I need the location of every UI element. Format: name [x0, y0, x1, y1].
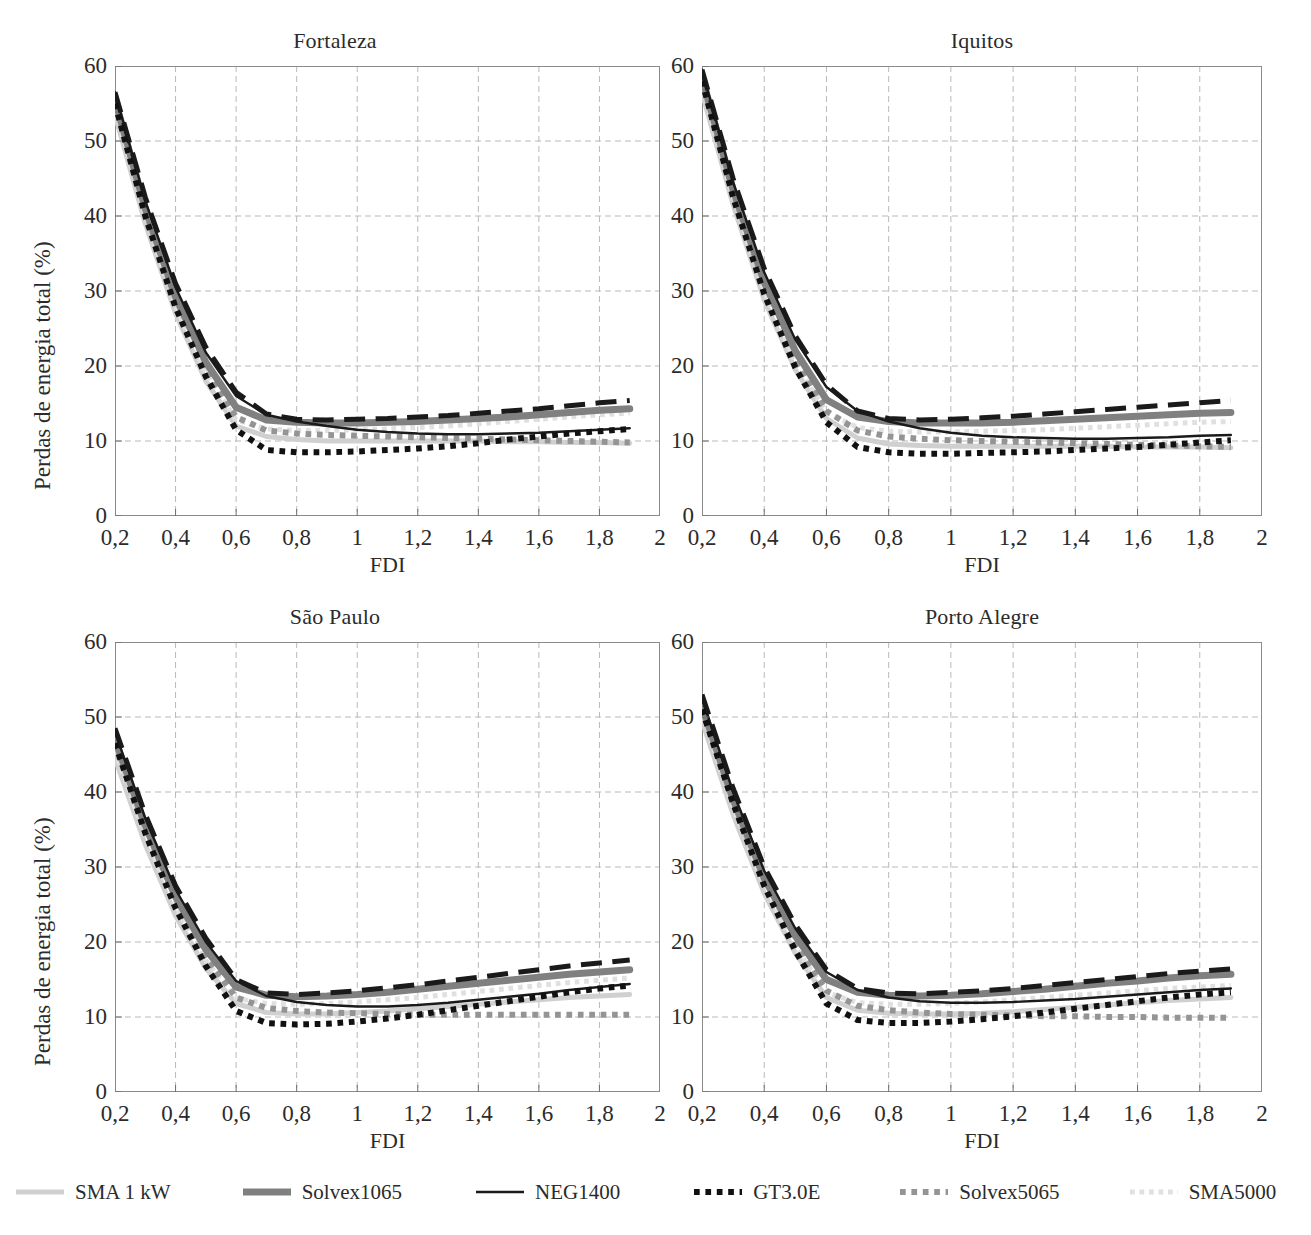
chart-canvas — [115, 66, 660, 516]
y-tick-label: 60 — [652, 630, 694, 653]
x-tick-label: 1,4 — [448, 526, 508, 549]
series-line-gt3-0e — [115, 743, 630, 1024]
legend-item-solvex1065[interactable]: Solvex1065 — [241, 1180, 402, 1205]
x-tick-label: 1 — [921, 1102, 981, 1125]
legend-item-sma-1-kw[interactable]: SMA 1 kW — [14, 1180, 171, 1205]
panel-title: Fortaleza — [55, 28, 615, 54]
panel-title: Porto Alegre — [702, 604, 1262, 630]
x-tick-label: 1 — [921, 526, 981, 549]
legend: SMA 1 kWSolvex1065NEG1400GT3.0ESolvex506… — [0, 1172, 1311, 1212]
y-tick-label: 20 — [65, 930, 107, 953]
x-tick-label: 1 — [327, 1102, 387, 1125]
y-tick-label: 50 — [65, 705, 107, 728]
x-tick-label: 0,2 — [85, 526, 145, 549]
series-line-neg1400 — [702, 70, 1231, 439]
x-tick-label: 1,2 — [983, 1102, 1043, 1125]
series-line-solvex5065 — [702, 710, 1231, 1018]
y-tick-label: 30 — [652, 279, 694, 302]
y-tick-label: 40 — [652, 780, 694, 803]
panel-title: Iquitos — [702, 28, 1262, 54]
legend-label: Solvex1065 — [302, 1180, 402, 1205]
y-axis-label: Perdas de energia total (%) — [30, 817, 56, 1066]
legend-swatch-icon — [692, 1183, 744, 1201]
series-line-sma5000 — [702, 85, 1231, 432]
x-tick-label: 1,4 — [448, 1102, 508, 1125]
legend-item-neg1400[interactable]: NEG1400 — [474, 1180, 620, 1205]
x-tick-label: 1,2 — [388, 526, 448, 549]
series-line-sma5000 — [115, 107, 630, 430]
y-tick-label: 30 — [65, 279, 107, 302]
x-tick-label: 0,6 — [206, 526, 266, 549]
x-tick-label: 1,8 — [1170, 526, 1230, 549]
series-line-solvex1065 — [115, 100, 630, 423]
series-line-sma-1-kw — [115, 115, 630, 444]
x-axis-label: FDI — [115, 552, 660, 578]
y-tick-label: 50 — [65, 129, 107, 152]
y-tick-label: 0 — [65, 504, 107, 527]
panel-iquitos: Iquitos FDI 01020304050600,20,40,60,811,… — [602, 22, 1311, 582]
x-tick-label: 0,4 — [146, 526, 206, 549]
x-tick-label: 1,2 — [983, 526, 1043, 549]
series-line-pvv3000 — [115, 92, 630, 420]
y-tick-label: 30 — [65, 855, 107, 878]
panel-fortaleza: Fortaleza Perdas de energia total (%) FD… — [0, 22, 660, 582]
chart-canvas — [702, 642, 1262, 1092]
y-tick-label: 60 — [652, 54, 694, 77]
x-tick-label: 1,2 — [388, 1102, 448, 1125]
plot-area-porto-alegre — [702, 642, 1262, 1092]
x-tick-label: 2 — [1232, 526, 1292, 549]
legend-label: SMA5000 — [1189, 1180, 1277, 1205]
legend-swatch-icon — [898, 1183, 950, 1201]
legend-label: Solvex5065 — [959, 1180, 1059, 1205]
legend-swatch-icon — [474, 1183, 526, 1201]
plot-area-fortaleza — [115, 66, 660, 516]
x-tick-label: 0,6 — [206, 1102, 266, 1125]
y-tick-label: 10 — [65, 429, 107, 452]
series-line-solvex1065 — [702, 706, 1231, 996]
x-tick-label: 0,4 — [734, 526, 794, 549]
x-axis-label: FDI — [702, 552, 1262, 578]
panel-porto-alegre: Porto Alegre FDI 01020304050600,20,40,60… — [602, 598, 1311, 1158]
plot-area-sao-paulo — [115, 642, 660, 1092]
x-tick-label: 0,8 — [859, 1102, 919, 1125]
y-tick-label: 60 — [65, 630, 107, 653]
x-tick-label: 1 — [327, 526, 387, 549]
series-line-sma-1-kw — [702, 92, 1231, 448]
x-tick-label: 1,4 — [1045, 1102, 1105, 1125]
x-axis-label: FDI — [115, 1128, 660, 1154]
y-tick-label: 0 — [65, 1080, 107, 1103]
legend-label: NEG1400 — [535, 1180, 620, 1205]
y-tick-label: 50 — [652, 129, 694, 152]
x-tick-label: 0,6 — [796, 1102, 856, 1125]
x-tick-label: 0,6 — [796, 526, 856, 549]
y-tick-label: 20 — [652, 354, 694, 377]
series-line-gt3-0e — [702, 81, 1231, 454]
series-line-sma5000 — [702, 713, 1231, 1004]
panel-title: São Paulo — [55, 604, 615, 630]
plot-area-iquitos — [702, 66, 1262, 516]
x-tick-label: 1,8 — [1170, 1102, 1230, 1125]
x-tick-label: 0,8 — [267, 526, 327, 549]
series-line-neg1400 — [115, 732, 630, 1007]
y-tick-label: 60 — [65, 54, 107, 77]
y-tick-label: 40 — [65, 780, 107, 803]
series-line-neg1400 — [115, 92, 630, 434]
y-tick-label: 10 — [652, 429, 694, 452]
x-axis-label: FDI — [702, 1128, 1262, 1154]
y-axis-label: Perdas de energia total (%) — [30, 241, 56, 490]
x-tick-label: 2 — [1232, 1102, 1292, 1125]
series-line-gt3-0e — [115, 104, 630, 453]
legend-item-gt3-0e[interactable]: GT3.0E — [692, 1180, 820, 1205]
x-tick-label: 1,6 — [1108, 526, 1168, 549]
legend-item-sma5000[interactable]: SMA5000 — [1128, 1180, 1277, 1205]
x-tick-label: 0,2 — [672, 1102, 732, 1125]
legend-swatch-icon — [241, 1183, 293, 1201]
y-tick-label: 40 — [652, 204, 694, 227]
series-line-solvex1065 — [115, 740, 630, 997]
x-tick-label: 0,8 — [859, 526, 919, 549]
legend-swatch-icon — [14, 1183, 66, 1201]
series-line-solvex5065 — [115, 104, 630, 443]
x-tick-label: 1,6 — [1108, 1102, 1168, 1125]
x-tick-label: 0,4 — [146, 1102, 206, 1125]
legend-item-solvex5065[interactable]: Solvex5065 — [898, 1180, 1059, 1205]
